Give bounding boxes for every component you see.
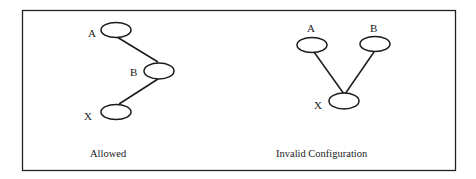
node-a-ellipse xyxy=(297,38,327,53)
edge-a-b xyxy=(117,37,158,62)
node-a-label: A xyxy=(88,27,96,39)
node-x-ellipse xyxy=(329,93,359,109)
node-b-ellipse xyxy=(360,37,390,52)
left-panel-allowed: A B X Allowed xyxy=(84,23,174,160)
right-panel-invalid: A B X Invalid Configuration xyxy=(276,22,390,159)
node-b-ellipse xyxy=(144,63,174,79)
node-b-label: B xyxy=(130,66,137,78)
node-a-label: A xyxy=(307,22,315,34)
node-b-label: B xyxy=(370,22,377,34)
node-a-ellipse xyxy=(101,23,131,38)
node-x-label: X xyxy=(314,99,322,111)
node-x-label: X xyxy=(84,110,92,122)
edge-b-x xyxy=(119,79,158,104)
caption-allowed: Allowed xyxy=(90,148,127,159)
node-x-ellipse xyxy=(101,105,131,120)
caption-invalid-configuration: Invalid Configuration xyxy=(276,148,368,159)
edge-b-x xyxy=(345,52,374,94)
edge-a-x xyxy=(314,52,344,94)
diagram-canvas: A B X Allowed A B X Invalid Configuratio… xyxy=(0,0,476,179)
